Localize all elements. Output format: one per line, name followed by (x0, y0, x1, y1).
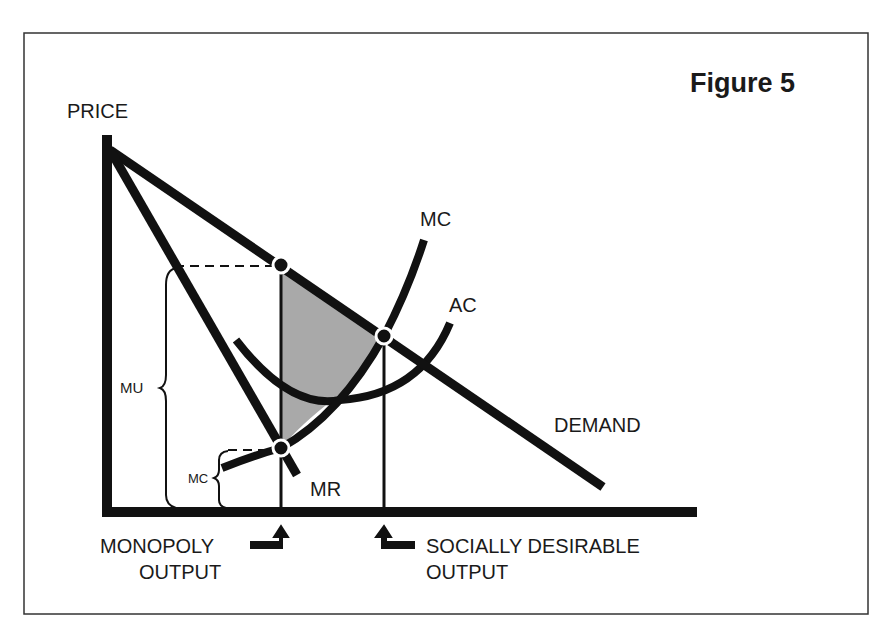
social-output-arrow-icon (376, 526, 414, 548)
mc-brace (214, 451, 228, 508)
demand-curve (110, 150, 603, 487)
social-optimum-point (376, 328, 392, 344)
social-output-label-line2: OUTPUT (426, 561, 508, 583)
mr-curve (110, 150, 297, 475)
monopoly-output-label-line2: OUTPUT (139, 561, 221, 583)
figure-title: Figure 5 (690, 68, 795, 98)
social-output-label-line1: SOCIALLY DESIRABLE (426, 535, 640, 557)
mr-mc-intersection-point (273, 440, 289, 456)
monopoly-output-arrow-icon (251, 526, 288, 548)
mu-brace-label: MU (120, 379, 143, 396)
mr-curve-label: MR (310, 478, 341, 500)
ac-curve-label: AC (449, 294, 477, 316)
mc-brace-label: MC (188, 471, 208, 486)
monopoly-output-label-line1: MONOPOLY (100, 535, 214, 557)
figure-5-diagram: Figure 5 PRICE MU MC MC AC DEMAND MR MON… (0, 0, 886, 640)
demand-curve-label: DEMAND (554, 414, 641, 436)
mu-brace (160, 268, 176, 508)
y-axis-label: PRICE (67, 100, 128, 122)
monopoly-price-point (273, 257, 289, 273)
mc-curve-label: MC (420, 208, 451, 230)
